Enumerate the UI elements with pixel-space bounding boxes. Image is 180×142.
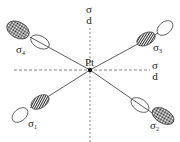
plane-subscript: d [152, 71, 158, 82]
sigma2-label: σ2 [150, 120, 159, 132]
sigma1-label: σ1 [28, 118, 37, 130]
sigma3-label: σ3 [153, 42, 162, 54]
plane-subscript: d [86, 15, 92, 26]
orbital-sigma4 [4, 17, 52, 52]
vertical-plane-label: σ d [86, 4, 92, 26]
horizontal-plane-label: σ d [152, 60, 158, 82]
pt-atom [88, 68, 92, 72]
pt-label: Pt [85, 57, 94, 68]
sigma4-label: σ4 [16, 44, 25, 56]
